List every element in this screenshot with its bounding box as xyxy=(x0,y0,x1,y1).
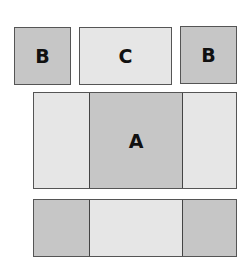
bottom-middle-cell xyxy=(89,200,182,256)
bottom-right-cell xyxy=(182,200,236,256)
middle-left-cell xyxy=(34,93,89,188)
box-b-left-label: B xyxy=(35,45,49,67)
box-c-label: C xyxy=(119,45,133,67)
box-b-right: B xyxy=(180,26,237,84)
bottom-row xyxy=(33,199,237,257)
box-b-left: B xyxy=(14,27,71,85)
middle-right-cell xyxy=(182,93,236,188)
box-a-label: A xyxy=(129,130,144,152)
box-c: C xyxy=(79,27,172,85)
bottom-left-cell xyxy=(34,200,89,256)
box-a: A xyxy=(89,93,182,188)
middle-row: A xyxy=(33,92,237,189)
box-b-right-label: B xyxy=(201,44,215,66)
